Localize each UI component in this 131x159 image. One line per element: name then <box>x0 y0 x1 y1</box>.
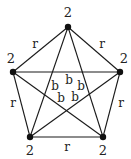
outer-edge-label: r <box>32 37 38 51</box>
vertex-node <box>117 69 123 75</box>
graph-diagram: rrrrrbbbbb22222 <box>0 0 131 159</box>
vertex-node <box>65 24 71 30</box>
vertex-label: 2 <box>120 51 128 66</box>
inner-edge-label: b <box>65 73 73 87</box>
outer-edge-label: r <box>118 96 124 110</box>
vertex-label: 2 <box>99 143 107 158</box>
vertex-node <box>27 134 33 140</box>
inner-edge-v0-v2 <box>68 27 103 137</box>
outer-edge-label: r <box>10 96 16 110</box>
inner-edge-label: b <box>57 91 65 105</box>
vertex-node <box>100 134 106 140</box>
outer-edge-v0-v1 <box>68 27 120 72</box>
inner-edge-v1-v3 <box>30 72 120 137</box>
inner-edge-label: b <box>71 90 79 104</box>
vertex-label: 2 <box>64 5 72 20</box>
outer-edge-label: r <box>99 37 105 51</box>
vertex-node <box>10 69 16 75</box>
vertex-label: 2 <box>26 143 34 158</box>
outer-edge-label: r <box>64 140 70 154</box>
vertex-label: 2 <box>7 51 15 66</box>
